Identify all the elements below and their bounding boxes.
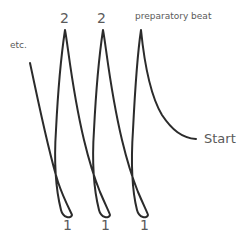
beat-1-label: 1 — [101, 218, 110, 232]
beat-path — [30, 30, 196, 217]
etc-label: etc. — [10, 41, 27, 50]
beat-1-label: 1 — [140, 218, 149, 232]
conducting-pattern-diagram — [0, 0, 244, 240]
preparatory-beat-label: preparatory beat — [135, 12, 211, 21]
start-label: Start — [204, 132, 236, 145]
beat-1-label: 1 — [63, 218, 72, 232]
beat-2-label: 2 — [97, 11, 106, 25]
beat-2-label: 2 — [60, 11, 69, 25]
